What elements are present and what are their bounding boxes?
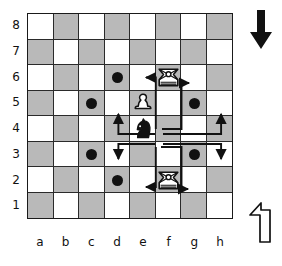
rank-label-1: 1	[8, 193, 24, 219]
file-label-h: h	[207, 233, 233, 251]
file-label-d: d	[104, 233, 130, 251]
chess-diagram: 8 7 6 5 4 3 2 1 a b c d e f g h	[0, 0, 282, 266]
file-label-a: a	[27, 233, 53, 251]
up-left-arrow-icon	[248, 202, 274, 244]
rank-label-6: 6	[8, 65, 24, 91]
down-arrow-icon	[249, 10, 273, 50]
rank-label-4: 4	[8, 116, 24, 142]
file-label-g: g	[182, 233, 208, 251]
rank-label-7: 7	[8, 39, 24, 65]
move-arrows	[27, 13, 233, 219]
rank-label-8: 8	[8, 13, 24, 39]
file-label-e: e	[130, 233, 156, 251]
chess-board	[27, 13, 233, 219]
rank-label-5: 5	[8, 90, 24, 116]
rank-label-3: 3	[8, 142, 24, 168]
file-label-c: c	[79, 233, 105, 251]
file-label-b: b	[53, 233, 79, 251]
rank-label-2: 2	[8, 168, 24, 194]
file-label-f: f	[156, 233, 182, 251]
